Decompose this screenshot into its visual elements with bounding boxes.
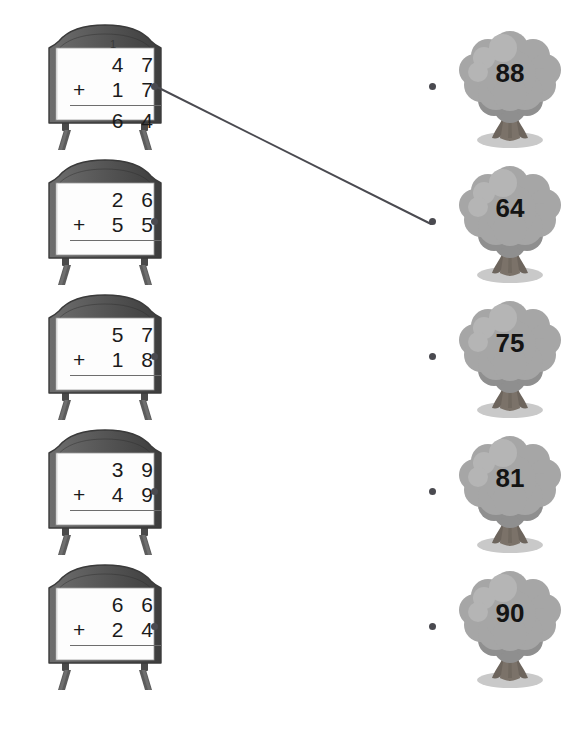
answer-tree-5[interactable]: 90 — [448, 560, 572, 694]
board-face-2: 2 6 + 5 5 — [55, 171, 155, 255]
chalkboard-5[interactable]: 6 6 + 2 4 — [44, 562, 166, 692]
carry-digit-1: 1 — [110, 39, 117, 50]
matching-worksheet: 1 4 7 + 1 7 6 4 — [0, 0, 583, 739]
addend-bottom-3: 1 8 — [67, 348, 165, 372]
worksheet-row: 5 7 + 1 8 — [0, 290, 583, 425]
problem-dot-1[interactable] — [151, 83, 158, 90]
answer-slot-1[interactable]: 6 4 — [67, 109, 165, 133]
answer-slot-5[interactable] — [67, 649, 165, 673]
board-face-1: 1 4 7 + 1 7 6 4 — [55, 36, 155, 120]
addition-problem-2: 2 6 + 5 5 — [67, 183, 165, 275]
addend-bottom-1: 1 7 — [67, 78, 165, 102]
addend-top-2: 2 6 — [67, 188, 165, 212]
sum-rule-1 — [70, 105, 162, 106]
addend-top-4: 3 9 — [67, 458, 165, 482]
answer-slot-4[interactable] — [67, 514, 165, 538]
worksheet-row: 3 9 + 4 9 — [0, 425, 583, 560]
addend-top-1: 4 7 — [67, 53, 165, 77]
board-face-3: 5 7 + 1 8 — [55, 306, 155, 390]
problem-dot-3[interactable] — [151, 353, 158, 360]
answer-dot-4[interactable] — [429, 488, 436, 495]
addend-top-5: 6 6 — [67, 593, 165, 617]
sum-rule-5 — [70, 645, 162, 646]
sum-rule-2 — [70, 240, 162, 241]
answer-slot-2[interactable] — [67, 244, 165, 268]
chalkboard-4[interactable]: 3 9 + 4 9 — [44, 427, 166, 557]
chalkboard-1[interactable]: 1 4 7 + 1 7 6 4 — [44, 22, 166, 152]
tree-icon — [448, 425, 572, 559]
addend-bottom-4: 4 9 — [67, 483, 165, 507]
sum-rule-4 — [70, 510, 162, 511]
chalkboard-3[interactable]: 5 7 + 1 8 — [44, 292, 166, 422]
addend-bottom-5: 2 4 — [67, 618, 165, 642]
answer-tree-4[interactable]: 81 — [448, 425, 572, 559]
addition-problem-5: 6 6 + 2 4 — [67, 588, 165, 680]
answer-dot-3[interactable] — [429, 353, 436, 360]
addition-problem-4: 3 9 + 4 9 — [67, 453, 165, 545]
answer-dot-1[interactable] — [429, 83, 436, 90]
tree-icon — [448, 20, 572, 154]
worksheet-row: 1 4 7 + 1 7 6 4 — [0, 20, 583, 155]
answer-tree-2[interactable]: 64 — [448, 155, 572, 289]
answer-tree-1[interactable]: 88 — [448, 20, 572, 154]
addition-problem-3: 5 7 + 1 8 — [67, 318, 165, 410]
worksheet-row: 6 6 + 2 4 — [0, 560, 583, 695]
chalkboard-2[interactable]: 2 6 + 5 5 — [44, 157, 166, 287]
answer-dot-5[interactable] — [429, 623, 436, 630]
problem-dot-4[interactable] — [151, 488, 158, 495]
answer-tree-3[interactable]: 75 — [448, 290, 572, 424]
answer-dot-2[interactable] — [429, 218, 436, 225]
tree-icon — [448, 560, 572, 694]
addition-problem-1: 1 4 7 + 1 7 6 4 — [67, 48, 165, 140]
problem-dot-2[interactable] — [151, 218, 158, 225]
worksheet-row: 2 6 + 5 5 — [0, 155, 583, 290]
board-face-5: 6 6 + 2 4 — [55, 576, 155, 660]
problem-dot-5[interactable] — [151, 623, 158, 630]
sum-rule-3 — [70, 375, 162, 376]
tree-icon — [448, 290, 572, 424]
addend-bottom-2: 5 5 — [67, 213, 165, 237]
addend-top-3: 5 7 — [67, 323, 165, 347]
answer-slot-3[interactable] — [67, 379, 165, 403]
tree-icon — [448, 155, 572, 289]
board-face-4: 3 9 + 4 9 — [55, 441, 155, 525]
